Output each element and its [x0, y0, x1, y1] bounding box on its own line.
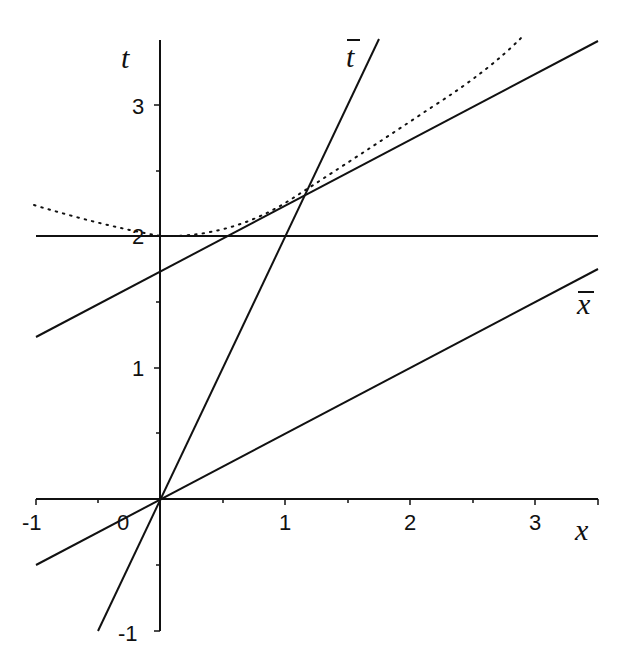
t-tick-label: 3 — [132, 94, 144, 119]
t-tick-label: 1 — [132, 356, 144, 381]
x-tick-label: 3 — [529, 510, 541, 535]
t-axis-title: t — [121, 41, 130, 74]
t-bar-label: t — [346, 40, 355, 73]
x-axis-title: x — [574, 513, 589, 546]
chart: -1 0 1 2 3 -1 1 2 3 x t t x — [0, 0, 627, 658]
x-tick-label: 0 — [117, 510, 129, 535]
t-tick-label: 2 — [132, 224, 144, 249]
line-tangent — [36, 41, 598, 337]
plot-area: -1 0 1 2 3 -1 1 2 3 x t t x — [0, 0, 627, 658]
line-t-bar-axis — [98, 39, 379, 631]
t-tick-label: -1 — [118, 621, 138, 646]
x-tick-label: 2 — [404, 510, 416, 535]
x-tick-label: -1 — [22, 510, 42, 535]
x-tick-label: 1 — [279, 510, 291, 535]
hyperbola-curve — [34, 36, 523, 236]
